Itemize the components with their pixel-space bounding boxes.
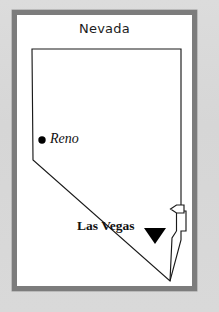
city-label-las-vegas: Las Vegas <box>77 218 134 234</box>
figure-frame: Nevada <box>12 10 197 291</box>
figure-title: Nevada <box>17 20 192 37</box>
city-label-reno: Reno <box>50 131 79 147</box>
